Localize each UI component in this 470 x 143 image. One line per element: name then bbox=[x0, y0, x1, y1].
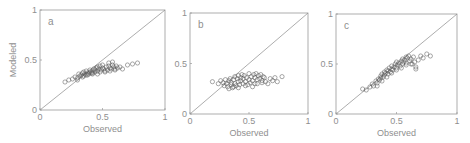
data-point bbox=[416, 58, 420, 62]
identity-line bbox=[190, 13, 308, 114]
y-tick-label: 0.5 bbox=[24, 55, 37, 65]
x-axis-label: Observed bbox=[83, 124, 122, 134]
y-tick-label: 1 bbox=[328, 9, 333, 19]
x-axis-label: Observed bbox=[377, 128, 416, 138]
data-point bbox=[275, 80, 279, 84]
data-point bbox=[247, 72, 251, 76]
panel-letter: a bbox=[48, 16, 54, 27]
y-tick-label: 0 bbox=[328, 109, 333, 119]
x-tick-label: 1 bbox=[305, 116, 310, 126]
y-tick-label: 1 bbox=[32, 5, 37, 15]
data-point bbox=[135, 61, 139, 65]
x-tick-label: 0 bbox=[187, 116, 192, 126]
data-point bbox=[428, 54, 432, 58]
y-axis-label: Modeled bbox=[8, 43, 18, 78]
panel-letter: b bbox=[198, 19, 204, 30]
data-point bbox=[262, 76, 266, 80]
identity-line bbox=[40, 10, 165, 110]
data-point bbox=[125, 63, 129, 67]
x-tick-label: 0.5 bbox=[390, 116, 403, 126]
panel-letter: c bbox=[344, 20, 349, 31]
x-tick-label: 0 bbox=[333, 116, 338, 126]
data-point bbox=[280, 75, 284, 79]
scatter-points bbox=[361, 52, 433, 92]
x-tick-label: 0 bbox=[37, 112, 42, 122]
y-tick-label: 0 bbox=[32, 105, 37, 115]
y-tick-label: 0.5 bbox=[174, 59, 187, 69]
y-tick-label: 0 bbox=[182, 109, 187, 119]
data-point bbox=[210, 80, 214, 84]
y-tick-label: 0.5 bbox=[320, 59, 333, 69]
y-tick-label: 1 bbox=[182, 8, 187, 18]
x-axis-label: Observed bbox=[229, 128, 268, 138]
panel-a: 00.5100.51Observeda bbox=[24, 5, 167, 134]
scatter-points bbox=[63, 60, 140, 84]
data-point bbox=[216, 82, 220, 86]
data-point bbox=[110, 60, 114, 64]
x-tick-label: 0.5 bbox=[96, 112, 109, 122]
x-tick-label: 0.5 bbox=[243, 116, 256, 126]
x-tick-label: 1 bbox=[454, 116, 459, 126]
x-tick-label: 1 bbox=[162, 112, 167, 122]
data-point bbox=[273, 76, 277, 80]
data-point bbox=[250, 85, 254, 89]
panel-b: 00.5100.51Observedb bbox=[174, 8, 310, 138]
scatter-points bbox=[210, 72, 284, 91]
data-point bbox=[130, 62, 134, 66]
panel-c: 00.5100.51Observedc bbox=[320, 9, 459, 138]
figure-canvas: Modeled 00.5100.51Observeda 00.5100.51Ob… bbox=[0, 0, 470, 143]
